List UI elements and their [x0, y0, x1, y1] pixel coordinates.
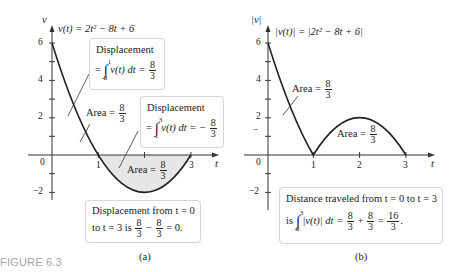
area-label-a2: Area = 83	[127, 160, 168, 181]
x-tick-1-b: 1	[311, 160, 316, 170]
y-tick-neg2-b: −2	[249, 186, 259, 196]
x-tick-3-b: 3	[403, 160, 408, 170]
y-tick-4-a: 4	[38, 74, 43, 84]
y-axis-label-a: v	[42, 14, 47, 25]
x-axis-label-a: t	[215, 158, 218, 169]
y-axis-label-b: |v|	[251, 14, 261, 25]
equation-a: v(t) = 2t² − 8t + 6	[58, 23, 134, 34]
x-axis-label-b: t	[431, 158, 434, 169]
net-displacement-box: Displacement from t = 0 to t = 3 is 83 −…	[85, 200, 201, 243]
box-title: Displacement	[147, 101, 205, 114]
displacement-box-0-1: Displacement = ∫10 v(t) dt = 83	[89, 38, 165, 90]
y-tick-6-a: 6	[38, 37, 43, 47]
equation-b: |v(t)| = |2t² − 8t + 6|	[275, 26, 363, 37]
x-tick-2-b: 2	[357, 160, 362, 170]
caption-a: (a)	[139, 251, 151, 262]
box-equation: = ∫31 v(t) dt = − 83	[146, 118, 218, 139]
box-title: Displacement	[96, 43, 154, 56]
y-tick-2-b: 2	[256, 111, 261, 121]
figure-label: FIGURE 6.3	[0, 256, 62, 268]
area-label-b2: Area = 83	[337, 124, 378, 145]
origin-b: 0	[256, 157, 261, 167]
caption-b: (b)	[355, 251, 367, 262]
displacement-box-1-3: Displacement = ∫31 v(t) dt = − 83	[140, 96, 224, 148]
y-tick-neg2-a: −2	[33, 186, 43, 196]
stray-mark-b: −	[253, 125, 258, 135]
y-tick-4-b: 4	[256, 74, 261, 84]
box-equation: = ∫10 v(t) dt = 83	[95, 60, 157, 81]
y-tick-2-a: 2	[38, 111, 43, 121]
area-label-a1: Area = 83	[86, 103, 127, 124]
distance-traveled-box: Distance traveled from t = 0 to t = 3 is…	[279, 187, 443, 244]
x-tick-3-a: 3	[189, 160, 194, 170]
origin-a: 0	[40, 157, 45, 167]
area-label-b1: Area = 83	[292, 79, 333, 100]
x-tick-1-a: 1	[96, 160, 101, 170]
y-tick-6-b: 6	[256, 37, 261, 47]
